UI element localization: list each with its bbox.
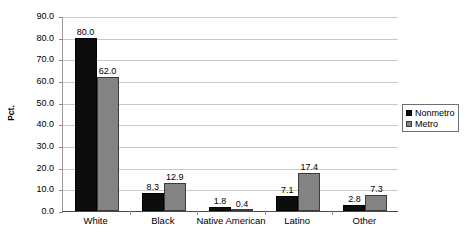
chart-legend: NonmetroMetro	[402, 104, 459, 132]
x-axis-label-native-american: Native American	[196, 215, 263, 227]
legend-swatch-nonmetro-icon	[406, 110, 412, 116]
y-axis-tick-label: 20.0	[0, 164, 54, 173]
bar-nonmetro-white	[75, 38, 97, 211]
bar-nonmetro-black	[142, 193, 164, 211]
y-axis-tickmark	[59, 169, 63, 170]
bar-nonmetro-other	[343, 205, 365, 211]
y-axis-tickmark	[59, 212, 63, 213]
y-axis-tickmark	[59, 104, 63, 105]
x-axis-label-other: Other	[331, 215, 398, 227]
bar-metro-black	[164, 183, 186, 211]
x-axis-label-black: Black	[129, 215, 196, 227]
y-axis-tick-label: 60.0	[0, 77, 54, 86]
y-axis-tick-label: 10.0	[0, 185, 54, 194]
y-axis-tickmark	[59, 39, 63, 40]
y-axis-tick-labels: 90.080.070.060.050.040.030.020.010.00.0	[0, 0, 58, 239]
gridline	[63, 17, 398, 18]
bar-value-label: 12.9	[157, 172, 193, 182]
bar-metro-latino	[298, 173, 320, 211]
y-axis-tick-label: 90.0	[0, 12, 54, 21]
legend-item-metro[interactable]: Metro	[406, 118, 455, 129]
y-axis-tickmark	[59, 147, 63, 148]
bar-nonmetro-latino	[276, 196, 298, 211]
bar-chart: Pct. 90.080.070.060.050.040.030.020.010.…	[0, 0, 472, 239]
legend-label: Nonmetro	[415, 108, 455, 118]
y-axis-tickmark	[59, 60, 63, 61]
y-axis-tickmark	[59, 82, 63, 83]
gridline	[63, 60, 398, 61]
plot-area: 80.062.08.312.91.80.47.117.42.87.3	[62, 17, 398, 212]
bar-value-label: 62.0	[90, 66, 126, 76]
x-axis-label-white: White	[62, 215, 129, 227]
y-axis-tick-label: 70.0	[0, 55, 54, 64]
y-axis-tickmark	[59, 17, 63, 18]
bar-value-label: 80.0	[68, 27, 104, 37]
y-axis-tick-label: 30.0	[0, 142, 54, 151]
bar-value-label: 7.3	[358, 184, 394, 194]
bar-value-label: 17.4	[291, 162, 327, 172]
y-axis-tick-label: 50.0	[0, 99, 54, 108]
x-axis-label-latino: Latino	[264, 215, 331, 227]
bar-value-label: 0.4	[224, 199, 260, 209]
y-axis-tick-label: 0.0	[0, 207, 54, 216]
bar-metro-native-american	[231, 209, 253, 211]
y-axis-tickmark	[59, 190, 63, 191]
bar-metro-white	[97, 77, 119, 211]
legend-swatch-metro-icon	[406, 121, 412, 127]
x-axis-category-labels: WhiteBlackNative AmericanLatinoOther	[62, 215, 398, 235]
legend-item-nonmetro[interactable]: Nonmetro	[406, 107, 455, 118]
legend-label: Metro	[415, 119, 438, 129]
gridline	[63, 39, 398, 40]
bar-metro-other	[365, 195, 387, 211]
y-axis-tick-label: 80.0	[0, 34, 54, 43]
y-axis-tick-label: 40.0	[0, 120, 54, 129]
y-axis-tickmark	[59, 125, 63, 126]
